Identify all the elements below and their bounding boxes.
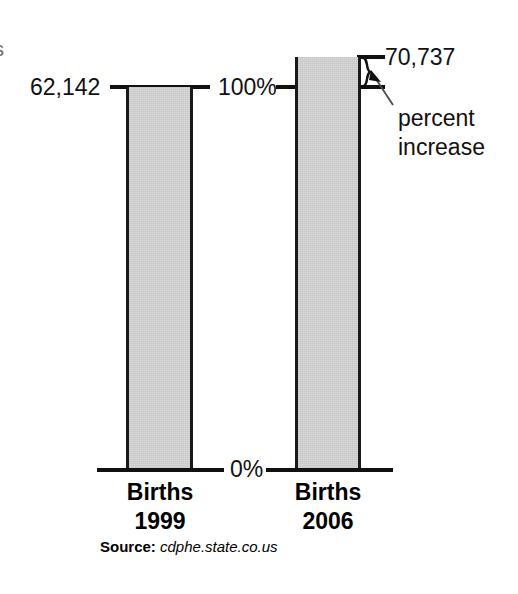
annotation-arrowhead bbox=[369, 70, 381, 82]
source-note: Source: cdphe.state.co.us bbox=[100, 538, 278, 555]
percent-increase-annotation: percent increase bbox=[398, 104, 485, 162]
reference-line-100-percent-right bbox=[357, 85, 385, 89]
baseline-2006 bbox=[266, 468, 393, 472]
percent-increase-line2: increase bbox=[398, 133, 485, 162]
chart-container: s 62,142 Births 1999 100% 0% 70,737 Birt… bbox=[0, 0, 518, 594]
category-label-2006-line1: Births bbox=[264, 478, 392, 507]
category-label-2006-line2: 2006 bbox=[264, 507, 392, 536]
baseline-1999 bbox=[97, 468, 224, 472]
annotation-leader-line bbox=[374, 76, 393, 105]
clipped-edge-glyph: s bbox=[0, 38, 4, 61]
source-url: cdphe.state.co.us bbox=[160, 538, 278, 555]
category-label-2006: Births 2006 bbox=[264, 478, 392, 536]
value-label-1999: 62,142 bbox=[30, 74, 100, 101]
percent-increase-brace bbox=[364, 58, 370, 86]
value-label-2006: 70,737 bbox=[385, 44, 455, 71]
bar-births-2006 bbox=[295, 57, 361, 470]
category-label-1999-line1: Births bbox=[96, 478, 224, 507]
axis-tick-100-percent: 100% bbox=[218, 74, 277, 101]
axis-tick-0-percent: 0% bbox=[230, 456, 263, 483]
category-label-1999: Births 1999 bbox=[96, 478, 224, 536]
tick-line-70737 bbox=[357, 55, 385, 59]
category-label-1999-line2: 1999 bbox=[96, 507, 224, 536]
percent-increase-line1: percent bbox=[398, 104, 485, 133]
source-prefix: Source: bbox=[100, 538, 156, 555]
bar-births-1999 bbox=[126, 87, 193, 470]
